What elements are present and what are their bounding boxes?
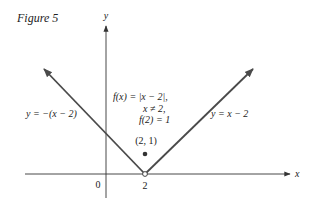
- left-branch-label-text: y = −(x − 2): [26, 108, 77, 119]
- y-axis-label: y: [104, 10, 108, 21]
- left-branch-label: y = −(x − 2): [26, 108, 77, 119]
- origin-label: 0: [96, 179, 101, 190]
- function-definition-line-3: f(2) = 1: [113, 114, 170, 126]
- point-label-2-1: (2, 1): [135, 135, 157, 146]
- right-branch-label-text: y = x − 2: [211, 108, 248, 119]
- right-branch-label: y = x − 2: [211, 108, 248, 119]
- figure-5: Figure 5 y x 0 2 y = −(x − 2) y = x −: [0, 0, 319, 213]
- x-tick-label-2: 2: [143, 180, 148, 191]
- function-definition: f(x) = |x − 2|, x ≠ 2, f(2) = 1: [113, 91, 170, 126]
- filled-point-2-1: [143, 152, 148, 157]
- function-definition-line-1: f(x) = |x − 2|,: [113, 91, 170, 103]
- function-definition-line-2: x ≠ 2,: [113, 103, 170, 115]
- x-axis-label: x: [295, 168, 299, 179]
- open-point-vertex: [143, 172, 148, 177]
